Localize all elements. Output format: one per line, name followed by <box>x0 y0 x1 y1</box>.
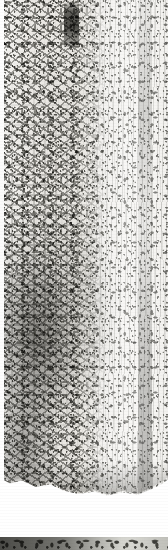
white-separator-gap <box>0 506 168 537</box>
strip-shading <box>0 537 168 550</box>
right-edge-streak <box>138 0 152 506</box>
dark-vertical-bar <box>64 3 79 47</box>
dark-cluster <box>0 230 98 500</box>
next-plate-top-edge <box>0 537 168 550</box>
left-white-margin <box>0 0 4 506</box>
inscription-plate <box>0 0 168 506</box>
scanned-page: Grayscale scan of a weathered inscribed … <box>0 0 168 550</box>
